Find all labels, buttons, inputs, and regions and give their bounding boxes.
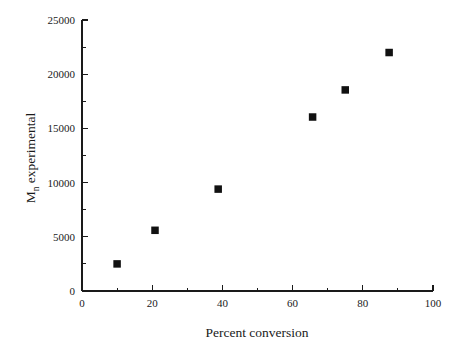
- x-axis-title: Percent conversion: [205, 325, 308, 340]
- x-tick-label: 40: [217, 297, 229, 309]
- x-tick-label: 20: [147, 297, 159, 309]
- data-point-marker: [385, 49, 393, 57]
- data-point-marker: [342, 86, 350, 94]
- y-tick-label: 10000: [48, 177, 76, 189]
- x-tick-label: 0: [79, 297, 85, 309]
- y-tick-label: 0: [70, 285, 76, 297]
- y-tick-label: 25000: [48, 14, 76, 26]
- x-tick-label: 80: [357, 297, 369, 309]
- y-tick-label: 15000: [48, 122, 76, 134]
- data-point-marker: [309, 113, 317, 121]
- data-point-marker: [151, 227, 159, 235]
- y-axis-title-main: M: [23, 191, 38, 203]
- y-tick-label: 5000: [53, 231, 76, 243]
- data-point-marker: [113, 260, 121, 268]
- data-point-marker: [214, 185, 222, 193]
- y-tick-label: 20000: [48, 68, 76, 80]
- scatter-plot: 020406080100 0500010000150002000025000 P…: [0, 0, 463, 354]
- y-axis-title-rest: experimental: [23, 112, 38, 186]
- x-tick-label: 100: [425, 297, 442, 309]
- x-tick-label: 60: [287, 297, 299, 309]
- chart-figure: 020406080100 0500010000150002000025000 P…: [0, 0, 463, 354]
